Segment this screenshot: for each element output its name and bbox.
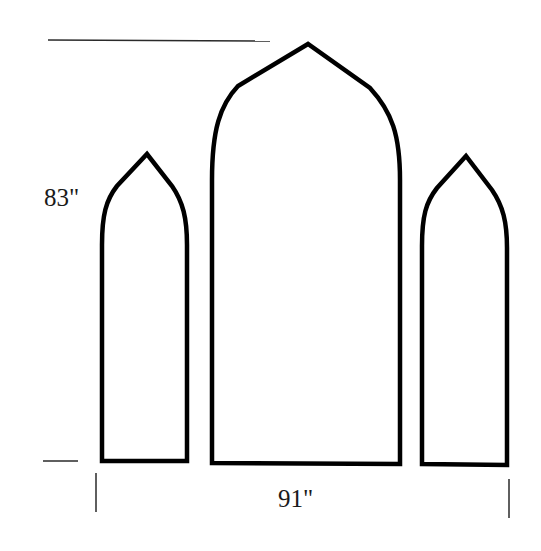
triptych-diagram: [0, 0, 541, 551]
height-dimension-label: 83": [44, 185, 79, 210]
width-dimension-label: 91": [278, 486, 313, 511]
left-panel: [102, 154, 187, 461]
top-dimension-line: [48, 40, 270, 41]
right-panel: [422, 156, 507, 465]
center-panel: [212, 44, 400, 464]
